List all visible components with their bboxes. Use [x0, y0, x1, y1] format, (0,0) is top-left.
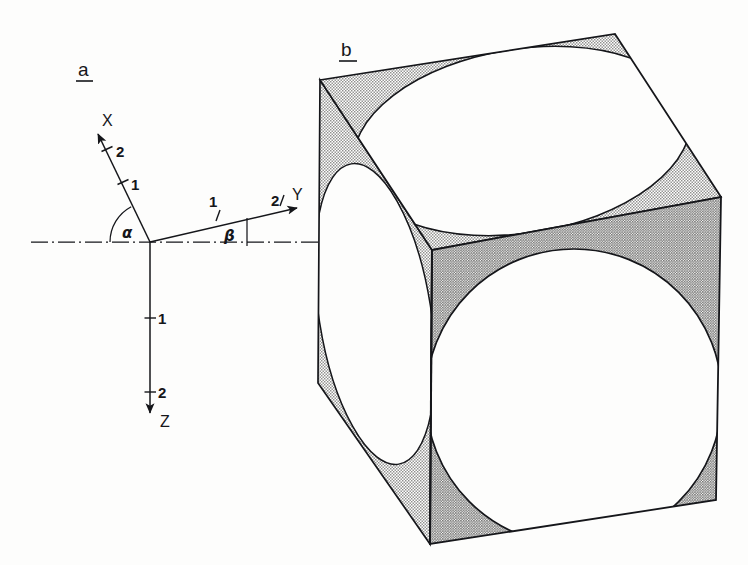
beta-angle-label: β	[223, 227, 235, 245]
x-axis-tick-1	[118, 180, 129, 185]
figure-root: 1 2 X α 1 2 Y β 1 2 Z	[0, 0, 748, 565]
z-axis-label: Z	[160, 413, 170, 430]
z-axis-tick-label-1: 1	[158, 310, 166, 327]
panel-b-group: b	[296, 24, 722, 545]
z-axis-tick-label-2: 2	[158, 384, 166, 401]
front-face-inscribed-circle	[426, 249, 722, 545]
panel-a-group: 1 2 X α 1 2 Y β 1 2 Z	[31, 59, 332, 430]
x-axis-tick-label-1: 1	[131, 176, 139, 193]
front-face-group	[426, 197, 722, 545]
y-axis-tick-2	[280, 195, 284, 206]
y-axis-label: Y	[292, 186, 303, 203]
figure-canvas: 1 2 X α 1 2 Y β 1 2 Z	[0, 0, 748, 565]
x-axis-tick-2	[102, 147, 113, 152]
alpha-angle-label: α	[122, 224, 133, 242]
x-axis-label: X	[102, 112, 113, 129]
panel-b-letter: b	[341, 39, 352, 60]
panel-a-letter: a	[78, 59, 89, 80]
y-axis-tick-1	[216, 210, 220, 221]
x-axis-tick-label-2: 2	[116, 143, 124, 160]
y-axis-tick-label-2: 2	[271, 192, 279, 209]
y-axis-tick-label-1: 1	[209, 193, 217, 210]
